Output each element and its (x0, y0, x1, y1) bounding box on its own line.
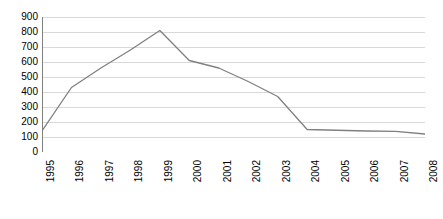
plot-background (42, 17, 425, 152)
x-axis-tick-label: 1995 (46, 160, 56, 182)
x-axis-tick-label-text: 2007 (400, 160, 410, 182)
x-axis-tick-label-text: 2004 (311, 160, 321, 182)
x-axis-tick-label: 2001 (223, 160, 233, 182)
x-axis-tick-label: 2005 (341, 160, 351, 182)
y-axis-tick-label: 500 (4, 72, 38, 82)
x-axis-tick-label: 2000 (193, 160, 203, 182)
x-axis-tick-label: 2008 (429, 160, 439, 182)
x-axis-tick-label-text: 1996 (75, 160, 85, 182)
y-axis-tick-label: 900 (4, 12, 38, 22)
y-axis-tick-label: 600 (4, 57, 38, 67)
x-axis-tick-label-text: 2001 (223, 160, 233, 182)
line-chart: 9008007006005004003002001000 19951996199… (0, 0, 443, 219)
x-axis-tick-label: 2007 (400, 160, 410, 182)
x-axis-tick-label-text: 1998 (134, 160, 144, 182)
x-axis-tick-label: 1998 (134, 160, 144, 182)
plot-area (42, 17, 425, 152)
plot-svg (42, 17, 425, 152)
x-axis-tick-label: 2006 (370, 160, 380, 182)
y-axis-tick-label: 0 (4, 147, 38, 157)
x-axis-tick-label-text: 1999 (164, 160, 174, 182)
x-axis-tick-label: 2002 (252, 160, 262, 182)
x-axis-tick-label-text: 2000 (193, 160, 203, 182)
y-axis-tick-label: 100 (4, 132, 38, 142)
x-axis-tick-label-text: 2002 (252, 160, 262, 182)
x-axis-tick-label: 1999 (164, 160, 174, 182)
x-axis-tick-label-text: 2006 (370, 160, 380, 182)
x-axis-tick-label: 1996 (75, 160, 85, 182)
x-axis-tick-label: 2004 (311, 160, 321, 182)
y-axis: 9008007006005004003002001000 (0, 0, 38, 219)
x-axis-tick-label-text: 2003 (282, 160, 292, 182)
x-axis-tick-label-text: 1997 (105, 160, 115, 182)
x-axis-tick-label-text: 2008 (429, 160, 439, 182)
x-axis-tick-label-text: 2005 (341, 160, 351, 182)
x-axis-tick-label: 1997 (105, 160, 115, 182)
y-axis-tick-label: 300 (4, 102, 38, 112)
y-axis-tick-label: 800 (4, 27, 38, 37)
x-axis-tick-label: 2003 (282, 160, 292, 182)
x-axis-tick-label-text: 1995 (46, 160, 56, 182)
y-axis-tick-label: 400 (4, 87, 38, 97)
y-axis-tick-label: 700 (4, 42, 38, 52)
y-axis-tick-label: 200 (4, 117, 38, 127)
x-axis: 1995199619971998199920002001200220032004… (42, 152, 425, 219)
